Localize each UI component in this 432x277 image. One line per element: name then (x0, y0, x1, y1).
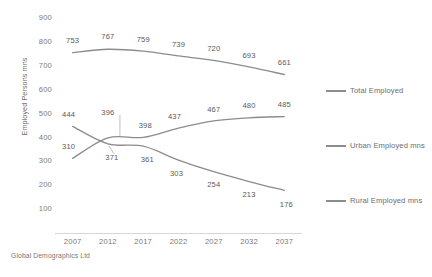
data-label: 303 (164, 169, 190, 178)
x-axis-tick: 2037 (264, 237, 304, 246)
y-axis-title: Employed Persons mns (20, 27, 29, 167)
data-label: 485 (271, 100, 297, 109)
x-axis-tick: 2032 (229, 237, 269, 246)
data-label: 213 (236, 190, 262, 199)
data-label: 437 (162, 112, 188, 121)
data-label: 720 (201, 44, 227, 53)
legend-item[interactable]: Urban Employed mns (326, 141, 425, 150)
legend-label: Total Employed (350, 86, 403, 95)
series-line (73, 117, 285, 159)
data-label: 467 (201, 105, 227, 114)
legend-line-swatch-icon (326, 145, 346, 147)
data-label: 310 (56, 142, 82, 151)
y-axis-tick: 600 (26, 85, 52, 94)
legend-line-swatch-icon (326, 90, 346, 92)
y-axis-tick: 100 (26, 204, 52, 213)
x-axis-tick: 2007 (53, 237, 93, 246)
y-axis-tick: 200 (26, 180, 52, 189)
legend-item[interactable]: Rural Employed mns (326, 196, 422, 205)
y-axis-tick: 800 (26, 37, 52, 46)
y-axis-tick: 500 (26, 109, 52, 118)
data-label: 753 (60, 36, 86, 45)
data-label: 767 (95, 32, 121, 41)
data-label: 361 (134, 155, 160, 164)
legend-label: Rural Employed mns (350, 196, 422, 205)
data-label: 371 (99, 153, 125, 162)
data-label: 444 (56, 110, 82, 119)
y-axis-tick: 400 (26, 133, 52, 142)
legend-line-swatch-icon (326, 200, 346, 202)
legend-item[interactable]: Total Employed (326, 86, 403, 95)
y-axis-tick: 300 (26, 156, 52, 165)
data-label: 739 (166, 40, 192, 49)
data-label: 396 (95, 108, 121, 117)
data-label: 254 (201, 180, 227, 189)
data-label: 661 (271, 58, 297, 67)
y-axis-tick: 900 (26, 13, 52, 22)
x-axis-tick: 2017 (123, 237, 163, 246)
x-axis-line (55, 233, 302, 234)
data-label: 759 (130, 35, 156, 44)
data-label: 176 (273, 200, 299, 209)
data-label: 693 (236, 51, 262, 60)
x-axis-tick: 2022 (159, 237, 199, 246)
x-axis-tick: 2012 (88, 237, 128, 246)
line-chart: Employed Persons mns 9008007006005004003… (0, 0, 432, 277)
data-label: 480 (236, 101, 262, 110)
data-label: 398 (132, 121, 158, 130)
y-axis-tick: 700 (26, 61, 52, 70)
source-credit: Global Demographics Ltd (11, 252, 90, 259)
x-axis-tick: 2027 (194, 237, 234, 246)
legend-label: Urban Employed mns (350, 141, 425, 150)
